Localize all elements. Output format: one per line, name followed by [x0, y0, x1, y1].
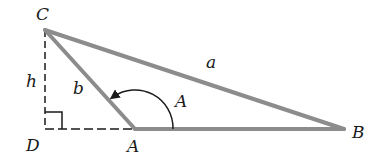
side-label-b: b: [73, 78, 84, 98]
side-label-a: a: [206, 52, 216, 72]
right-angle-marker: [45, 112, 62, 129]
vertex-label-c: C: [36, 4, 49, 24]
altitude-label-h: h: [26, 71, 37, 91]
angle-label-a: A: [173, 91, 187, 111]
vertex-label-b: B: [351, 122, 365, 142]
vertex-label-a: A: [125, 136, 139, 156]
angle-arc-arrow-icon: [113, 90, 173, 129]
vertex-label-d: D: [25, 135, 40, 155]
triangle-diagram: C D A B a b h A: [0, 0, 385, 159]
